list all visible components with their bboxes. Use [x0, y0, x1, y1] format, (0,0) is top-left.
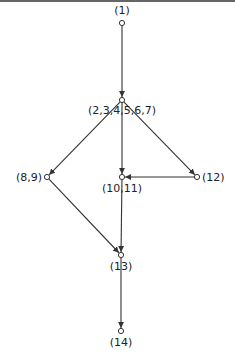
node-label: (13)	[110, 260, 133, 273]
node-label: (8,9)	[16, 171, 42, 184]
node-label: (12)	[202, 171, 225, 184]
node-n1: (1)	[114, 4, 130, 26]
node-circle-icon	[119, 97, 124, 102]
node-circle-icon	[119, 20, 124, 25]
node-label: (2,3,4,5,6,7)	[88, 104, 156, 117]
node-n13: (13)	[110, 252, 133, 273]
node-label: (1)	[114, 4, 130, 17]
node-n14: (14)	[110, 328, 133, 349]
node-n2: (2,3,4,5,6,7)	[88, 97, 156, 117]
node-circle-icon	[118, 252, 123, 257]
node-circle-icon	[194, 174, 199, 179]
node-n12: (12)	[194, 171, 224, 184]
flow-graph: (1)(2,3,4,5,6,7)(8,9)(10,11)(12)(13)(14)	[0, 0, 235, 353]
node-circle-icon	[44, 174, 49, 179]
node-circle-icon	[119, 174, 124, 179]
node-label: (10,11)	[102, 182, 142, 195]
node-label: (14)	[110, 336, 133, 349]
node-circle-icon	[118, 328, 123, 333]
node-n8: (8,9)	[16, 171, 50, 184]
